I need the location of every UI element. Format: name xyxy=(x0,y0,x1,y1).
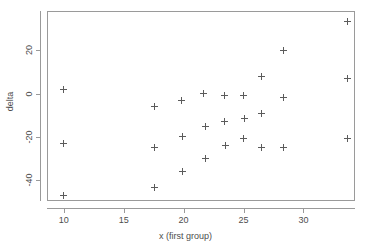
x-axis-title: x (first group) xyxy=(0,231,371,242)
y-axis-tick xyxy=(36,50,41,51)
data-point xyxy=(60,86,67,93)
data-point xyxy=(241,115,248,122)
x-axis-tick-label: 15 xyxy=(119,215,129,225)
data-point xyxy=(60,192,67,199)
data-point xyxy=(202,123,209,130)
data-point xyxy=(240,135,247,142)
scatter-plot-figure: 1015202530 200-20-40 x (first group) del… xyxy=(0,0,371,250)
data-point xyxy=(151,184,158,191)
data-point xyxy=(344,135,351,142)
y-axis-tick xyxy=(36,180,41,181)
x-axis-tick-label: 10 xyxy=(59,215,69,225)
y-axis-tick-label: -20 xyxy=(24,130,34,144)
y-axis-tick xyxy=(36,94,41,95)
data-point xyxy=(280,47,287,54)
x-axis-tick-label: 30 xyxy=(298,215,308,225)
x-axis-tick xyxy=(244,208,245,213)
data-point xyxy=(258,73,265,80)
data-point xyxy=(151,144,158,151)
y-axis-line xyxy=(40,11,41,201)
x-axis-tick xyxy=(64,208,65,213)
x-axis-tick xyxy=(184,208,185,213)
x-axis-tick xyxy=(124,208,125,213)
data-point xyxy=(178,97,185,104)
x-axis-tick-label: 25 xyxy=(239,215,249,225)
x-axis-tick xyxy=(303,208,304,213)
data-point xyxy=(221,118,228,125)
y-axis-tick-label: 20 xyxy=(24,43,34,57)
data-point xyxy=(179,168,186,175)
data-point xyxy=(280,94,287,101)
data-point xyxy=(179,133,186,140)
x-axis-tick-label: 20 xyxy=(179,215,189,225)
data-point xyxy=(258,110,265,117)
data-point xyxy=(202,155,209,162)
y-axis-tick-label: 0 xyxy=(24,87,34,101)
data-point xyxy=(60,140,67,147)
data-point xyxy=(200,90,207,97)
x-axis-line xyxy=(47,208,355,209)
data-point xyxy=(222,142,229,149)
y-axis-tick xyxy=(36,137,41,138)
data-point xyxy=(221,92,228,99)
data-points-layer xyxy=(47,11,355,201)
y-axis-tick-label: -40 xyxy=(24,173,34,187)
y-axis-title: delta xyxy=(5,92,16,112)
data-point xyxy=(344,18,351,25)
data-point xyxy=(258,144,265,151)
data-point xyxy=(151,103,158,110)
data-point xyxy=(280,144,287,151)
data-point xyxy=(240,92,247,99)
data-point xyxy=(344,75,351,82)
